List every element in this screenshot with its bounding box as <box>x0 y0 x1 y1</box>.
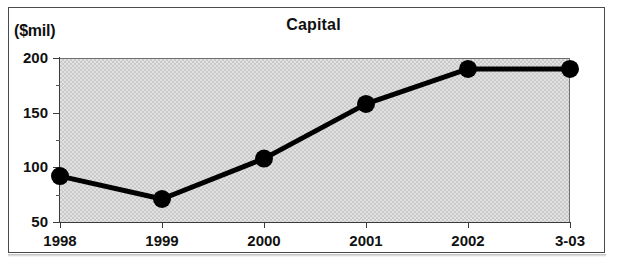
chart-title: Capital <box>0 16 627 34</box>
y-axis-tick-label: 100 <box>4 158 48 175</box>
x-axis-tick <box>468 222 469 228</box>
x-axis-tick-label: 1999 <box>122 232 202 249</box>
y-axis-tick <box>53 167 60 168</box>
x-axis-tick <box>60 222 61 228</box>
plot-area <box>60 58 570 222</box>
x-axis-tick <box>570 222 571 228</box>
x-axis-tick-label: 1998 <box>20 232 100 249</box>
x-axis-tick <box>264 222 265 228</box>
y-axis-minor-tick <box>56 85 60 86</box>
capital-line-chart-figure: ($mil) Capital 50100150200 1998199920002… <box>0 0 627 271</box>
y-axis-tick-label: 150 <box>4 104 48 121</box>
y-axis-tick-label: 200 <box>4 49 48 66</box>
y-axis-tick-label: 50 <box>4 213 48 230</box>
y-axis-minor-tick <box>56 195 60 196</box>
x-axis-tick-label: 2000 <box>224 232 304 249</box>
x-axis-tick <box>366 222 367 228</box>
y-axis-minor-tick <box>56 140 60 141</box>
y-axis-tick <box>53 113 60 114</box>
x-axis-tick <box>162 222 163 228</box>
x-axis-line <box>59 222 571 223</box>
x-axis-tick-label: 3-03 <box>530 232 610 249</box>
x-axis-tick-label: 2001 <box>326 232 406 249</box>
x-axis-tick-label: 2002 <box>428 232 508 249</box>
y-axis-tick <box>53 222 60 223</box>
scan-shadow <box>8 254 606 257</box>
y-axis-tick <box>53 58 60 59</box>
